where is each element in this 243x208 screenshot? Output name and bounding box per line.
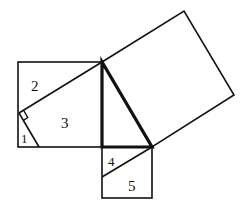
right-triangle: [102, 62, 152, 147]
right-angle-marker: [23, 110, 28, 120]
pythagorean-dissection-diagram: 2 3 1 4 5: [0, 0, 243, 208]
label-piece-4: 4: [108, 154, 115, 169]
label-piece-5: 5: [128, 178, 136, 194]
hypotenuse-square: [102, 11, 234, 147]
label-piece-3: 3: [61, 115, 69, 131]
label-piece-2: 2: [31, 78, 39, 94]
label-piece-1: 1: [21, 131, 28, 146]
